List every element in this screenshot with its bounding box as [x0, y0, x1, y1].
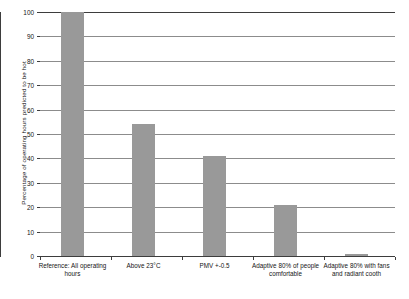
y-tick-mark-100 [37, 12, 40, 13]
y-tick-mark-30 [37, 183, 40, 184]
y-tick-label-100: 100 [0, 9, 34, 16]
gridline-90 [40, 36, 395, 37]
y-tick-mark-90 [37, 36, 40, 37]
y-tick-label-80: 80 [0, 57, 34, 64]
y-tick-label-20: 20 [0, 204, 34, 211]
x-tick-mark-0 [40, 257, 41, 260]
y-tick-label-0: 0 [0, 253, 34, 260]
y-tick-mark-10 [37, 232, 40, 233]
x-category-label: Reference: All operating hours [37, 262, 108, 278]
y-tick-label-50: 50 [0, 131, 34, 138]
x-tick-mark-5 [395, 257, 396, 260]
bar [274, 205, 297, 256]
bar [203, 156, 226, 256]
plot-area [40, 12, 395, 256]
x-category-label: Adaptive 80% with fans and radiant cooth [321, 262, 392, 278]
x-tick-mark-2 [182, 257, 183, 260]
y-tick-label-60: 60 [0, 106, 34, 113]
x-axis-line [40, 256, 395, 257]
gridline-100 [40, 12, 395, 13]
y-tick-mark-20 [37, 207, 40, 208]
y-tick-label-40: 40 [0, 155, 34, 162]
bar-chart: Percentage of operating hours predicted … [0, 0, 409, 299]
x-category-label: Above 23°C [108, 262, 179, 270]
x-tick-mark-4 [324, 257, 325, 260]
bar [132, 124, 155, 256]
x-tick-mark-3 [253, 257, 254, 260]
gridline-50 [40, 134, 395, 135]
y-tick-label-30: 30 [0, 179, 34, 186]
x-category-label: Adaptive 80% of people comfortable [250, 262, 321, 278]
gridline-80 [40, 61, 395, 62]
x-tick-mark-1 [111, 257, 112, 260]
y-tick-mark-60 [37, 110, 40, 111]
x-category-label: PMV +-0.5 [179, 262, 250, 270]
y-tick-label-70: 70 [0, 82, 34, 89]
y-tick-label-90: 90 [0, 33, 34, 40]
y-tick-mark-40 [37, 158, 40, 159]
gridline-60 [40, 110, 395, 111]
y-tick-mark-80 [37, 61, 40, 62]
gridline-70 [40, 85, 395, 86]
y-tick-label-10: 10 [0, 228, 34, 235]
y-tick-mark-70 [37, 85, 40, 86]
y-tick-mark-50 [37, 134, 40, 135]
bar [61, 12, 84, 256]
